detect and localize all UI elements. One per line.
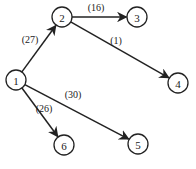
edge-weight-label: (27): [22, 34, 39, 46]
node-label: 4: [175, 78, 181, 90]
edge-weight-label: (1): [110, 35, 122, 47]
node-4: 4: [168, 73, 188, 93]
node-label: 3: [134, 12, 140, 24]
edge-weight-label: (16): [88, 2, 105, 14]
arrow-icon: [22, 25, 56, 71]
graph-diagram: (27)(16)(1)(30)(26) 123456: [0, 0, 196, 169]
graph-canvas: (27)(16)(1)(30)(26) 123456: [0, 0, 196, 169]
node-label: 2: [59, 12, 65, 24]
node-label: 5: [135, 139, 141, 151]
edge-weight-label: (30): [65, 89, 82, 101]
node-2: 2: [52, 7, 72, 27]
node-label: 1: [13, 75, 19, 87]
node-6: 6: [54, 135, 74, 155]
nodes-layer: 123456: [6, 7, 188, 155]
edges-layer: [22, 17, 169, 139]
node-3: 3: [127, 7, 147, 27]
edge-1-to-2: [22, 25, 56, 71]
edge-weight-label: (26): [36, 103, 53, 115]
node-1: 1: [6, 70, 26, 90]
edge-2-to-4: [71, 22, 169, 78]
node-5: 5: [128, 134, 148, 154]
node-label: 6: [61, 140, 67, 152]
arrow-icon: [71, 22, 169, 78]
